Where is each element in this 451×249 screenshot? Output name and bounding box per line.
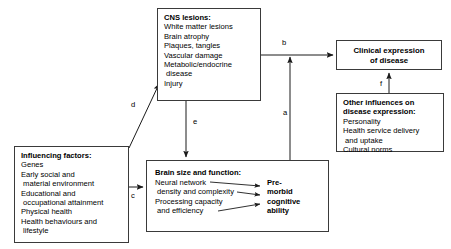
influencing-factors-item: material environment [21, 179, 128, 188]
cns-lesions-title: CNS lesions: [164, 13, 260, 22]
brain-function-item: and efficiency [155, 206, 234, 215]
other-influences-item: Personality [343, 117, 443, 126]
clinical-expression-line2: of disease [341, 56, 437, 66]
edge-d-arrow [129, 84, 159, 148]
brain-function-item: density and complexity [155, 187, 234, 196]
node-influencing-factors[interactable]: Influencing factors: Genes Early social … [14, 146, 129, 243]
influencing-factors-item: Genes [21, 160, 128, 169]
cns-lesions-item: Plaques, tangles [164, 41, 260, 50]
other-influences-item: Health service delivery [343, 126, 443, 135]
inner-arrow-density-to-premorbid [237, 192, 260, 195]
edge-label-a: a [283, 108, 287, 117]
edge-label-e: e [193, 117, 197, 126]
influencing-factors-item: Health behaviours and [21, 217, 128, 226]
cns-lesions-item: Vascular damage [164, 51, 260, 60]
brain-size-function-title: Brain size and function: [155, 168, 241, 177]
edge-label-b: b [282, 38, 286, 47]
premorbid-line: Pre- [267, 178, 300, 187]
edge-label-d: d [131, 100, 135, 109]
premorbid-cognitive-ability-label: Pre- morbid cognitive ability [267, 178, 300, 216]
diagram-canvas: b a e d c f CNS lesions: White matter le… [0, 0, 451, 249]
other-influences-title-line2: disease expression: [343, 107, 443, 116]
node-cns-lesions[interactable]: CNS lesions: White matter lesions Brain … [157, 8, 261, 101]
cns-lesions-item: disease [164, 69, 260, 78]
brain-function-item: Neural network [155, 178, 234, 187]
influencing-factors-item: Physical health [21, 207, 128, 216]
influencing-factors-item: lifestyle [21, 226, 128, 235]
node-brain-size-function[interactable]: Brain size and function: Neural network … [146, 160, 329, 232]
edge-label-c: c [131, 191, 135, 200]
premorbid-line: ability [267, 206, 300, 215]
other-influences-title-line1: Other influences on [343, 98, 443, 107]
other-influences-item: Cultural norms [343, 145, 443, 154]
influencing-factors-item: Early social and [21, 170, 128, 179]
node-other-influences[interactable]: Other influences on disease expression: … [336, 93, 444, 152]
other-influences-item: and uptake [343, 136, 443, 145]
premorbid-line: cognitive [267, 197, 300, 206]
cns-lesions-item: Metabolic/endocrine [164, 60, 260, 69]
cns-lesions-item: Brain atrophy [164, 32, 260, 41]
brain-function-item: Processing capacity [155, 197, 234, 206]
cns-lesions-item: White matter lesions [164, 22, 260, 31]
influencing-factors-item: occupational attainment [21, 198, 128, 207]
influencing-factors-item: Educational and [21, 189, 128, 198]
premorbid-line: morbid [267, 187, 300, 196]
clinical-expression-line1: Clinical expression [341, 46, 437, 56]
influencing-factors-title: Influencing factors: [21, 151, 128, 160]
brain-size-function-left-column: Neural network density and complexity Pr… [155, 178, 234, 216]
cns-lesions-item: Injury [164, 79, 260, 88]
edge-label-f: f [380, 79, 382, 88]
node-clinical-expression[interactable]: Clinical expression of disease [336, 40, 442, 70]
